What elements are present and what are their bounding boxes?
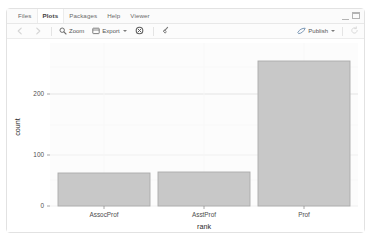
window-controls	[342, 12, 360, 19]
x-tick-label-prof: Prof	[298, 211, 310, 218]
x-tick-label-asstprof: AsstProf	[192, 211, 216, 218]
plot-output-area[interactable]: 0 100 200 count AssocProf AsstProf Prof …	[7, 39, 364, 232]
tab-plots[interactable]: Plots	[37, 9, 65, 23]
tab-packages[interactable]: Packages	[64, 9, 102, 23]
pane-tabstrip: Files Plots Packages Help Viewer	[7, 9, 364, 24]
tab-files[interactable]: Files	[13, 9, 37, 23]
toolbar-separator	[51, 27, 52, 36]
publish-button[interactable]: Publish	[294, 25, 338, 38]
back-button[interactable]	[13, 25, 29, 38]
bar-assocprof[interactable]	[58, 173, 150, 206]
broom-icon	[161, 26, 170, 36]
plots-pane: Files Plots Packages Help Viewer	[6, 8, 365, 233]
zoom-button[interactable]: Zoom	[56, 25, 87, 38]
y-axis-title: count	[13, 118, 22, 136]
tab-help[interactable]: Help	[102, 9, 125, 23]
publish-label: Publish	[308, 28, 328, 34]
x-tick-label-assocprof: AssocProf	[89, 211, 118, 218]
publish-chevron-down-icon	[331, 30, 335, 32]
plots-toolbar: Zoom Export	[7, 24, 364, 39]
export-label: Export	[102, 28, 119, 34]
export-button[interactable]: Export	[89, 25, 129, 38]
minimize-icon[interactable]	[342, 14, 349, 20]
bar-asstprof[interactable]	[158, 172, 250, 206]
y-tick-label-0: 0	[40, 202, 44, 209]
x-axis-title: rank	[197, 222, 211, 231]
publish-icon	[297, 27, 306, 36]
refresh-button[interactable]	[347, 25, 364, 38]
export-icon	[92, 27, 100, 36]
magnifier-icon	[59, 27, 67, 36]
toolbar-separator-3	[342, 27, 343, 36]
chevron-down-icon	[123, 30, 127, 32]
refresh-icon	[350, 26, 359, 36]
ggplot-bar-chart: 0 100 200 count AssocProf AsstProf Prof …	[7, 39, 364, 232]
zoom-label: Zoom	[69, 28, 84, 34]
clear-all-plots-button[interactable]	[158, 25, 175, 38]
remove-plot-icon	[135, 26, 144, 36]
maximize-icon[interactable]	[352, 12, 360, 19]
arrow-right-icon	[34, 27, 42, 36]
y-tick-label-100: 100	[33, 151, 44, 158]
remove-plot-button[interactable]	[132, 25, 149, 38]
rstudio-plots-pane-screenshot: Files Plots Packages Help Viewer	[0, 0, 373, 246]
y-tick-label-200: 200	[33, 90, 44, 97]
tab-viewer[interactable]: Viewer	[125, 9, 154, 23]
arrow-left-icon	[16, 27, 24, 36]
toolbar-separator-2	[153, 27, 154, 36]
bar-prof[interactable]	[258, 61, 350, 206]
forward-button[interactable]	[31, 25, 47, 38]
